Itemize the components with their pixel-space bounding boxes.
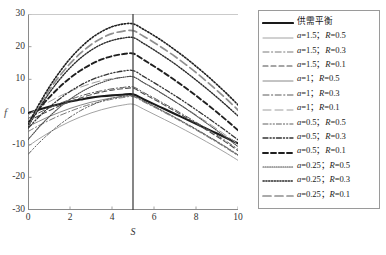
legend-line-swatch [262,73,294,85]
legend-item[interactable]: a=0.5；R=0.3 [262,129,377,143]
x-tick-label: 2 [68,213,73,223]
legend-line-swatch [262,15,294,27]
legend-item[interactable]: a=0.5；R=0.5 [262,115,377,129]
legend-item[interactable]: a=1；R=0.5 [262,72,377,86]
legend-label: a=0.25；R=0.1 [297,190,350,199]
legend-label: a=0.5；R=0.3 [297,132,346,141]
plot-area: 3020100-10-20-30 0246810 S f [28,14,238,210]
legend-line-swatch [262,44,294,56]
legend-line-swatch [262,116,294,128]
legend-line-swatch [262,58,294,70]
legend-label: a=1.5；R=0.3 [297,46,346,55]
legend-line-swatch [262,188,294,200]
legend-item[interactable]: a=1；R=0.3 [262,86,377,100]
legend-label: a=0.25；R=0.3 [297,175,350,184]
y-axis-label: f [4,106,7,118]
x-tick-label: 10 [233,213,243,223]
legend-item[interactable]: a=1.5；R=0.3 [262,43,377,57]
legend-item[interactable]: a=1.5；R=0.5 [262,28,377,42]
legend-line-swatch [262,87,294,99]
y-tick-label: 10 [16,75,26,85]
y-tick-label: 20 [16,42,26,52]
plot-canvas [28,14,238,210]
chart-legend: 供需平衡a=1.5；R=0.5a=1.5；R=0.3a=1.5；R=0.1a=1… [258,10,380,209]
legend-label: a=1.5；R=0.1 [297,60,346,69]
legend-line-swatch [262,173,294,185]
legend-item[interactable]: a=1.5；R=0.1 [262,57,377,71]
legend-label: a=1；R=0.5 [297,74,339,83]
legend-line-swatch [262,145,294,157]
y-tick-label: 30 [16,9,26,19]
legend-line-swatch [262,159,294,171]
legend-item[interactable]: 供需平衡 [262,14,377,28]
legend-label: a=1；R=0.3 [297,89,339,98]
legend-label: 供需平衡 [297,17,333,26]
legend-label: a=0.25；R=0.5 [297,161,350,170]
x-tick-label: 8 [194,213,199,223]
legend-line-swatch [262,30,294,42]
x-tick-label: 0 [26,213,31,223]
y-tick-label: -30 [12,205,25,215]
y-tick-label: -20 [12,173,25,183]
x-axis-label: S [131,226,136,237]
legend-item[interactable]: a=0.5；R=0.1 [262,144,377,158]
legend-label: a=1.5；R=0.5 [297,31,346,40]
chart-figure: 3020100-10-20-30 0246810 S f 供需平衡a=1.5；R… [0,0,386,255]
legend-label: a=0.5；R=0.1 [297,146,346,155]
legend-label: a=1；R=0.1 [297,103,339,112]
y-tick-label: 0 [20,107,25,117]
legend-line-swatch [262,130,294,142]
x-tick-label: 4 [110,213,115,223]
legend-line-swatch [262,102,294,114]
x-tick-label: 6 [152,213,157,223]
y-tick-label: -10 [12,140,25,150]
legend-item[interactable]: a=0.25；R=0.1 [262,187,377,201]
legend-item[interactable]: a=0.25；R=0.3 [262,172,377,186]
legend-label: a=0.5；R=0.5 [297,118,346,127]
legend-item[interactable]: a=0.25；R=0.5 [262,158,377,172]
legend-item[interactable]: a=1；R=0.1 [262,100,377,114]
